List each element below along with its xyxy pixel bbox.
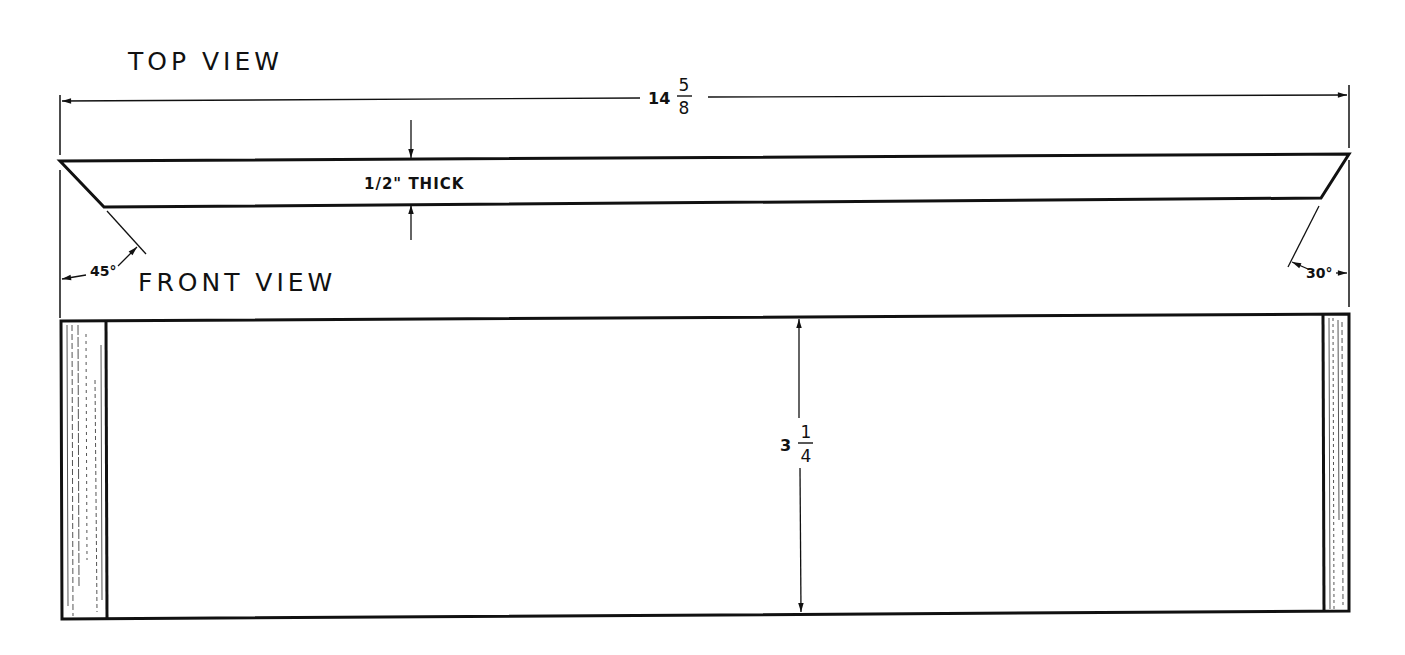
right-angle-label: 30° bbox=[1306, 265, 1332, 281]
drawing-canvas: TOP VIEW 14 5 8 1/2" THICK 45° 30° FRONT… bbox=[0, 0, 1405, 655]
length-numerator: 5 bbox=[679, 75, 690, 95]
right-end-grain-hatch bbox=[1329, 318, 1343, 609]
length-denominator: 8 bbox=[679, 98, 690, 118]
right-angle-annotation bbox=[1288, 206, 1347, 273]
top-view-title: TOP VIEW bbox=[127, 47, 283, 76]
front-view-title: FRONT VIEW bbox=[138, 268, 336, 297]
height-whole: 3 bbox=[780, 436, 791, 455]
length-whole: 14 bbox=[648, 89, 670, 108]
height-numerator: 1 bbox=[801, 422, 812, 442]
front-view-board bbox=[61, 314, 1349, 619]
left-end-grain-hatch bbox=[67, 325, 102, 616]
height-denominator: 4 bbox=[801, 446, 812, 466]
overall-length-dimension: 14 5 8 bbox=[62, 75, 1347, 118]
left-angle-label: 45° bbox=[90, 263, 116, 279]
top-view-board bbox=[60, 154, 1349, 207]
thickness-note: 1/2" THICK bbox=[364, 175, 465, 193]
